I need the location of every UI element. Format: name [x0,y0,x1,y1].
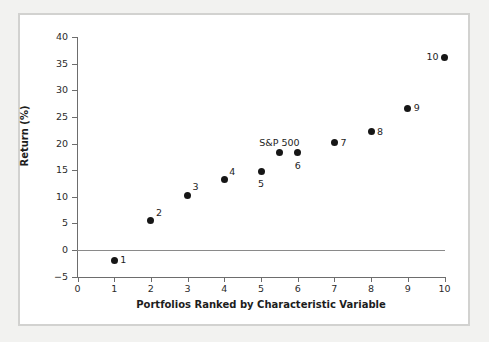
x-axis-tick-mark [298,277,299,282]
data-point-label: S&P 500 [259,138,299,148]
data-point-label: 8 [377,127,383,137]
x-axis-tick-mark [408,277,409,282]
y-axis-tick-label: 10 [38,192,68,202]
x-axis-tick-label: 1 [102,284,126,294]
x-axis-title: Portfolios Ranked by Characteristic Vari… [77,300,445,310]
x-axis-tick-label: 9 [396,284,420,294]
data-point [331,139,338,146]
x-axis-tick-label: 3 [176,284,200,294]
data-point-label: 9 [414,103,420,113]
data-point [294,149,301,156]
x-axis-tick-mark [261,277,262,282]
data-point-label: 6 [295,161,301,171]
x-axis-tick-mark [114,277,115,282]
y-axis-tick-mark [72,223,77,224]
x-axis-tick-mark [188,277,189,282]
y-axis-tick-mark [72,197,77,198]
x-axis-tick-mark [224,277,225,282]
data-point-label: 3 [193,182,199,192]
scatter-plot: −50510152025303540 012345678910 12345S&P… [0,0,489,342]
y-axis-title: Return (%) [20,90,30,182]
y-axis-tick-label: 15 [38,165,68,175]
data-point [184,192,191,199]
data-point-label: 4 [229,167,235,177]
data-point [147,217,154,224]
data-point [111,257,118,264]
data-point-label: 10 [427,52,439,62]
y-axis-tick-label: 20 [38,139,68,149]
x-axis-tick-mark [445,277,446,282]
data-point-label: 1 [120,255,126,265]
y-axis-tick-mark [72,90,77,91]
zero-reference-line [77,250,445,251]
y-axis-tick-label: 25 [38,112,68,122]
x-axis-tick-label: 10 [433,284,457,294]
x-axis-tick-mark [151,277,152,282]
data-point [368,128,375,135]
y-axis-tick-mark [72,144,77,145]
y-axis-tick-mark [72,170,77,171]
y-axis-tick-label: −5 [38,272,68,282]
x-axis-tick-mark [334,277,335,282]
y-axis-tick-mark [72,37,77,38]
data-point-label: 2 [156,208,162,218]
x-axis-tick-label: 8 [359,284,383,294]
y-axis-tick-label: 40 [38,32,68,42]
y-axis-tick-mark [72,64,77,65]
y-axis-tick-label: 30 [38,85,68,95]
y-axis-tick-label: 0 [38,245,68,255]
data-point [441,54,448,61]
data-point-label: 5 [258,179,264,189]
data-point-label: 7 [340,138,346,148]
x-axis-tick-label: 5 [249,284,273,294]
x-axis-tick-mark [78,277,79,282]
data-point [258,168,265,175]
data-point [276,149,283,156]
y-axis-tick-label: 35 [38,59,68,69]
x-axis-tick-label: 7 [322,284,346,294]
x-axis-tick-label: 6 [286,284,310,294]
x-axis-tick-label: 4 [212,284,236,294]
data-point [221,176,228,183]
y-axis-tick-mark [72,250,77,251]
data-point [404,105,411,112]
y-axis-tick-mark [72,117,77,118]
x-axis-tick-label: 0 [66,284,90,294]
x-axis-tick-label: 2 [139,284,163,294]
y-axis-tick-mark [72,277,77,278]
y-axis-tick-label: 5 [38,218,68,228]
x-axis-tick-mark [371,277,372,282]
y-axis-line [77,37,78,278]
